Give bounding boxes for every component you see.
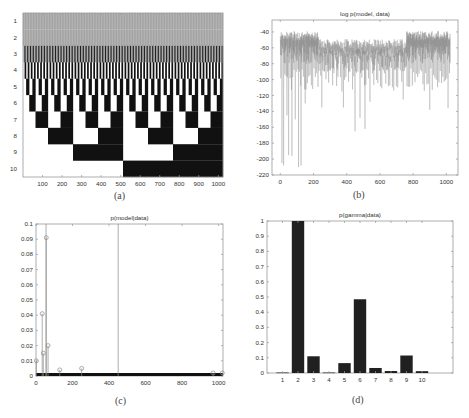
matrix-block <box>53 62 55 79</box>
matrix-block <box>42 95 48 112</box>
matrix-block <box>102 46 103 63</box>
matrix-block <box>71 46 72 63</box>
matrix-block <box>143 62 145 79</box>
tick-label: 200 <box>67 379 78 386</box>
matrix-block <box>68 46 69 63</box>
matrix-block <box>61 46 62 63</box>
matrix-block <box>159 62 161 79</box>
matrix-block <box>193 62 195 79</box>
matrix-block <box>193 46 194 63</box>
log-likelihood-series <box>280 31 450 167</box>
matrix-block <box>153 62 155 79</box>
matrix-row-1 <box>23 13 223 29</box>
matrix-block <box>57 79 60 96</box>
matrix-block <box>74 46 75 63</box>
tick-label: 600 <box>135 180 146 187</box>
tick-label: 0 <box>261 369 265 376</box>
matrix-block <box>123 161 223 178</box>
matrix-block <box>116 46 117 63</box>
matrix-block <box>86 111 99 128</box>
matrix-block <box>114 46 115 63</box>
matrix-block <box>202 46 203 63</box>
tick-label: 400 <box>104 379 115 386</box>
matrix-block <box>75 62 77 79</box>
matrix-block <box>136 46 137 63</box>
matrix-block <box>219 46 220 63</box>
tick-label: 200 <box>308 178 319 185</box>
matrix-block <box>109 62 111 79</box>
matrix-block <box>78 46 79 63</box>
matrix-block <box>120 79 123 96</box>
matrix-block <box>129 95 135 112</box>
matrix-block <box>39 46 40 63</box>
matrix-block <box>43 62 45 79</box>
matrix-block <box>80 46 81 63</box>
tick-label: 0.09 <box>21 235 34 242</box>
matrix-row-2 <box>23 29 223 45</box>
matrix-block <box>178 46 179 63</box>
tick-label: 400 <box>96 180 107 187</box>
matrix-block <box>184 62 186 79</box>
matrix-block <box>58 46 59 63</box>
tick-label: 500 <box>115 180 126 187</box>
matrix-block <box>211 111 224 128</box>
tick-label: 4 <box>14 66 18 73</box>
matrix-block <box>203 46 204 63</box>
tick-label: 0.05 <box>21 296 34 303</box>
matrix-block <box>64 79 67 96</box>
matrix-block <box>108 46 109 63</box>
tick-label: 1000 <box>212 379 226 386</box>
tick-label: 7 <box>14 116 18 123</box>
matrix-block <box>197 46 198 63</box>
tick-label: 0.8 <box>255 247 264 254</box>
tick-label: 800 <box>408 178 419 185</box>
matrix-block <box>142 95 148 112</box>
matrix-block <box>145 79 148 96</box>
matrix-block <box>111 46 112 63</box>
matrix-block <box>60 46 61 63</box>
tick-label: -60 <box>260 44 270 51</box>
matrix-block <box>181 62 183 79</box>
matrix-block <box>183 46 184 63</box>
tick-label: 100 <box>37 180 48 187</box>
matrix-block <box>136 111 149 128</box>
matrix-block <box>41 46 42 63</box>
matrix-block <box>48 128 73 145</box>
matrix-block <box>57 46 58 63</box>
matrix-block <box>34 62 36 79</box>
matrix-block <box>82 46 83 63</box>
matrix-block <box>170 79 173 96</box>
matrix-block <box>105 46 106 63</box>
matrix-block <box>203 62 205 79</box>
matrix-block <box>92 95 98 112</box>
tick-label: 3 <box>14 50 18 57</box>
tick-label: 7 <box>374 376 378 383</box>
matrix-block <box>54 95 60 112</box>
matrix-block <box>115 62 117 79</box>
matrix-block <box>101 79 104 96</box>
tick-label: 0.03 <box>21 326 34 333</box>
matrix-block <box>98 128 123 145</box>
matrix-block <box>209 62 211 79</box>
matrix-block <box>73 144 123 161</box>
tick-label: 5 <box>14 83 18 90</box>
matrix-block <box>82 79 85 96</box>
matrix-block <box>99 46 100 63</box>
matrix-block <box>213 46 214 63</box>
tick-label: -40 <box>260 28 270 35</box>
matrix-block <box>61 111 74 128</box>
matrix-block <box>103 62 105 79</box>
tick-label: 0.3 <box>255 323 264 330</box>
tick-label: 8 <box>389 376 393 383</box>
matrix-block <box>64 46 65 63</box>
matrix-block <box>119 46 120 63</box>
tick-label: 0.1 <box>24 220 33 227</box>
matrix-block <box>206 62 208 79</box>
matrix-block <box>121 46 122 63</box>
matrix-block <box>151 79 154 96</box>
matrix-block <box>113 46 114 63</box>
matrix-block <box>90 62 92 79</box>
matrix-block <box>24 46 25 63</box>
tick-label: 4 <box>327 376 331 383</box>
tick-label: 2 <box>296 376 300 383</box>
